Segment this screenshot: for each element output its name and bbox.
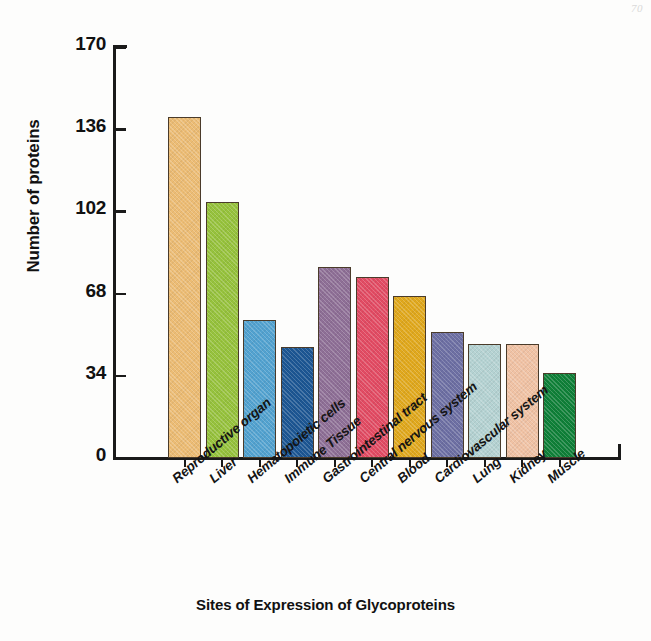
y-tick-label-68: 68 [36,280,106,302]
y-tick-label-170: 170 [36,33,106,55]
y-axis-tick-labels: 03468102136170 [28,0,106,470]
bar-hematopoietic-cells[interactable] [243,320,276,458]
page-number-mark: 70 [631,2,643,14]
y-tick-label-34: 34 [36,362,106,384]
y-tick-label-136: 136 [36,115,106,137]
y-tick-label-0: 0 [36,444,106,466]
y-tick-label-102: 102 [36,197,106,219]
bar-reproductive-organ[interactable] [168,117,201,458]
x-axis-title: Sites of Expression of Glycoproteins [0,596,651,613]
chart-figure: 70 Number of proteins 03468102136170 Rep… [0,0,651,641]
bar-muscle[interactable] [543,373,576,458]
